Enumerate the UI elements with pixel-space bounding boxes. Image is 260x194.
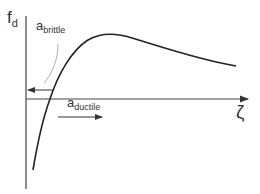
y-axis-subscript: d [12, 17, 18, 29]
brittle-leader-line [44, 44, 58, 83]
brittle-label: abrittle [36, 18, 65, 33]
x-axis-label: ζ [236, 101, 244, 123]
brittle-subscript: brittle [43, 25, 65, 35]
force-curve [33, 34, 236, 170]
ductile-label: aductile [67, 95, 100, 110]
y-axis-label: fd [7, 8, 18, 28]
ductile-subscript: ductile [74, 102, 100, 112]
